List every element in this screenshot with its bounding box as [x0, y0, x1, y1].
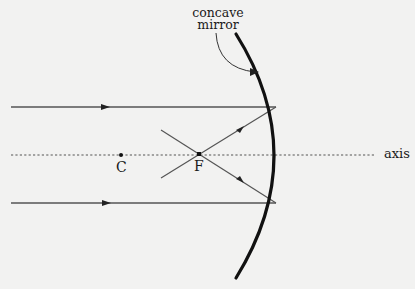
mirror-label: concave mirror [190, 7, 246, 31]
diagram-canvas [0, 0, 415, 289]
mirror-label-line2: mirror [190, 19, 246, 31]
mirror-diagram: concave mirror C F axis [0, 0, 415, 289]
arrow-left-icon [236, 176, 244, 183]
reflected-ray-top [161, 107, 276, 178]
label-f: F [194, 160, 204, 172]
point-c-dot [119, 153, 123, 157]
arrow-right-icon [101, 104, 110, 110]
label-c: C [116, 161, 127, 173]
point-f-dot [197, 152, 201, 156]
arrow-left-icon [236, 126, 244, 133]
reflected-ray-bottom [161, 130, 276, 203]
arrow-right-icon [102, 200, 111, 206]
incident-ray-bottom [11, 200, 276, 206]
incident-ray-top [11, 104, 276, 110]
label-pointer-arrow [216, 33, 255, 72]
label-axis: axis [384, 148, 410, 160]
